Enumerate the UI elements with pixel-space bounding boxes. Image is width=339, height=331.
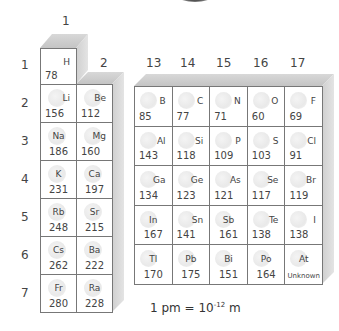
atom-sphere-icon — [140, 132, 157, 149]
element-cell-rb: Rb248 — [40, 198, 77, 237]
element-symbol: N — [234, 96, 241, 106]
element-cell-te: Te138 — [247, 205, 286, 246]
element-symbol: As — [230, 175, 241, 185]
atomic-radius-value: 164 — [248, 269, 285, 280]
element-cell-b: B85 — [134, 86, 173, 127]
atomic-radius-value: 103 — [252, 150, 271, 161]
left-block-side-face — [112, 72, 124, 312]
element-symbol: Sb — [210, 215, 247, 225]
atomic-radius-value: 134 — [139, 190, 158, 201]
period-label-1: 1 — [21, 58, 29, 72]
atomic-radius-value: 91 — [289, 150, 302, 161]
atomic-radius-value: 231 — [41, 184, 76, 195]
element-cell-cl: Cl91 — [284, 126, 323, 167]
element-symbol: Cs — [41, 245, 76, 255]
atom-sphere-icon — [215, 132, 232, 149]
element-symbol: S — [273, 136, 279, 146]
atomic-radius-value: 156 — [45, 108, 64, 119]
atom-sphere-icon — [290, 92, 307, 109]
element-cell-br: Br119 — [284, 165, 323, 206]
element-cell-na: Na186 — [40, 122, 77, 161]
element-cell-po: Po164 — [247, 244, 286, 285]
element-symbol: Ca — [77, 169, 112, 179]
element-symbol: Ba — [77, 245, 112, 255]
element-symbol: Rb — [41, 207, 76, 217]
element-cell-ca: Ca197 — [76, 160, 113, 199]
atomic-radius-value: 262 — [41, 260, 76, 271]
atomic-radius-value: 112 — [81, 108, 100, 119]
atomic-radius-value: 248 — [41, 222, 76, 233]
atomic-radius-value: 77 — [177, 111, 190, 122]
atomic-radius-value: 118 — [177, 150, 196, 161]
element-symbol: Na — [41, 131, 76, 141]
period-label-7: 7 — [21, 286, 29, 300]
element-symbol: F — [311, 96, 316, 106]
atom-sphere-icon — [140, 92, 157, 109]
element-symbol: At — [285, 254, 322, 264]
element-symbol: O — [271, 96, 278, 106]
element-symbol: Sn — [192, 215, 203, 225]
atomic-radius-value: 85 — [139, 111, 152, 122]
element-symbol: Ga — [153, 175, 166, 185]
element-cell-sr: Sr215 — [76, 198, 113, 237]
atomic-radius-value: 161 — [210, 229, 247, 240]
atom-sphere-icon — [253, 211, 270, 228]
atomic-radius-value: 69 — [289, 111, 302, 122]
element-cell-n: N71 — [209, 86, 248, 127]
element-cell-s: S103 — [247, 126, 286, 167]
atom-sphere-icon — [178, 92, 195, 109]
element-symbol: I — [313, 215, 316, 225]
atomic-radius-value: 160 — [81, 146, 100, 157]
element-cell-tl: Tl170 — [134, 244, 173, 285]
element-symbol: Br — [306, 175, 316, 185]
element-symbol: Mg — [93, 131, 106, 141]
element-cell-mg: Mg160 — [76, 122, 113, 161]
atomic-radius-value: 141 — [177, 229, 196, 240]
element-symbol: C — [197, 96, 203, 106]
atom-sphere-icon — [253, 132, 270, 149]
element-cell-al: Al143 — [134, 126, 173, 167]
unit-note-suffix: m — [225, 301, 241, 315]
element-symbol: P — [235, 136, 240, 146]
element-symbol: Pb — [173, 254, 210, 264]
element-symbol: Ra — [77, 283, 112, 293]
element-cell-bi: Bi151 — [209, 244, 248, 285]
atom-sphere-icon — [290, 171, 307, 188]
element-cell-h: H78 — [40, 48, 77, 85]
atomic-radius-value: 138 — [289, 229, 308, 240]
element-cell-sn: Sn141 — [172, 205, 211, 246]
atomic-radius-value: 175 — [173, 269, 210, 280]
atomic-radius-value: 138 — [252, 229, 271, 240]
atom-sphere-icon — [178, 132, 195, 149]
atomic-radius-value: 117 — [252, 190, 271, 201]
element-symbol: Bi — [210, 254, 247, 264]
atomic-radius-value: 228 — [77, 298, 112, 309]
element-symbol: Li — [62, 93, 70, 103]
element-cell-cs: Cs262 — [40, 236, 77, 275]
period-label-3: 3 — [21, 134, 29, 148]
element-symbol: Ge — [191, 175, 204, 185]
group-label-13: 13 — [146, 56, 161, 70]
unit-note-exponent: -12 — [214, 301, 225, 309]
atomic-radius-value: 197 — [77, 184, 112, 195]
element-symbol: B — [159, 96, 165, 106]
atom-sphere-icon — [253, 92, 270, 109]
group-label-1: 1 — [62, 14, 70, 28]
atomic-radius-value: 170 — [135, 269, 172, 280]
period-label-5: 5 — [21, 210, 29, 224]
atom-sphere-icon — [215, 92, 232, 109]
element-cell-ba: Ba222 — [76, 236, 113, 275]
atomic-radius-value: 143 — [139, 150, 158, 161]
element-cell-li: Li156 — [40, 84, 77, 123]
element-cell-fr: Fr280 — [40, 274, 77, 313]
decorative-sphere-fragment — [178, 0, 212, 2]
element-cell-ga: Ga134 — [134, 165, 173, 206]
atom-sphere-icon — [290, 211, 307, 228]
atomic-radius-value: 121 — [214, 190, 233, 201]
element-symbol: K — [41, 169, 76, 179]
element-cell-k: K231 — [40, 160, 77, 199]
right-block-top-face — [134, 74, 334, 86]
atomic-radius-value: 71 — [214, 111, 227, 122]
unit-note-prefix: 1 pm = 10 — [150, 301, 214, 315]
period-label-6: 6 — [21, 248, 29, 262]
